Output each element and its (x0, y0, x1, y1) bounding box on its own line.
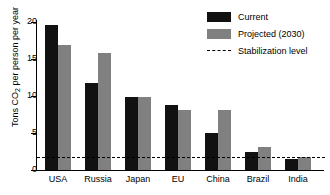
legend-swatch-projected (207, 29, 231, 39)
x-axis-line (36, 170, 324, 171)
bar-group-japan (125, 22, 151, 170)
legend-item-dashline: Stabilization level (207, 42, 327, 59)
bar-eu-current (165, 105, 178, 170)
y-axis-ticks: 05101520 (0, 0, 37, 195)
legend-swatch-dashline (207, 50, 231, 51)
legend-label-projected: Projected (2030) (238, 29, 305, 39)
bar-russia-projected (98, 53, 111, 170)
legend-swatch-current (207, 12, 231, 22)
y-tick-label-20: 20 (11, 17, 37, 26)
legend-item-current: Current (207, 8, 327, 25)
legend-label-current: Current (238, 12, 268, 22)
bar-eu-projected (178, 110, 191, 170)
bar-brazil-projected (258, 147, 271, 170)
bar-japan-current (125, 97, 138, 170)
bar-group-russia (85, 22, 111, 170)
bar-india-current (285, 159, 298, 170)
bar-india-projected (298, 157, 311, 170)
co2-emissions-bar-chart: Tons CO2 per person per year 05101520 US… (0, 0, 330, 195)
y-tick-label-10: 10 (11, 91, 37, 100)
bar-china-current (205, 133, 218, 170)
legend-label-dashline: Stabilization level (238, 46, 308, 56)
legend-item-projected: Projected (2030) (207, 25, 327, 42)
bar-usa-current (45, 25, 58, 170)
bar-brazil-current (245, 152, 258, 170)
y-tick-label-15: 15 (11, 54, 37, 63)
category-label-india: India (275, 174, 321, 184)
y-tick-label-5: 5 (11, 128, 37, 137)
bar-usa-projected (58, 45, 71, 170)
bar-group-usa (45, 22, 71, 170)
bar-japan-projected (138, 97, 151, 170)
bar-china-projected (218, 110, 231, 170)
bar-group-eu (165, 22, 191, 170)
stabilization-level-line (37, 157, 325, 158)
chart-legend: CurrentProjected (2030)Stabilization lev… (207, 8, 327, 59)
y-tick-label-0: 0 (11, 165, 37, 174)
